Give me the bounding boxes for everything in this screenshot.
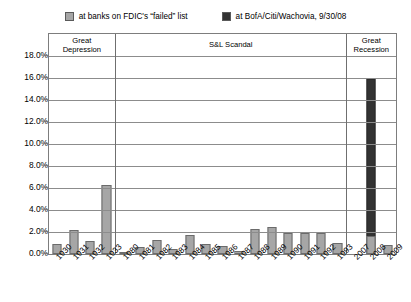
x-axis: 1930193119321933198019811982198319841985… — [48, 256, 397, 302]
bar-slot — [149, 56, 165, 254]
legend-item-failed-banks: at banks on FDIC's “failed” list — [65, 12, 188, 21]
bar-slot — [198, 56, 214, 254]
bar-slot — [264, 56, 280, 254]
bar-slot — [296, 56, 312, 254]
legend-swatch-icon — [65, 12, 74, 21]
gridline — [49, 56, 396, 57]
band-title-great-depression: GreatDepression — [49, 35, 115, 56]
bar-slot — [329, 56, 345, 254]
bar-slot — [247, 56, 263, 254]
legend-item-bofa-citi-wachovia: at BofA/Citi/Wachovia, 9/30/08 — [222, 12, 347, 21]
y-axis-tick-label: 16.0% — [6, 73, 48, 81]
y-axis-tick-label: 8.0% — [6, 161, 48, 169]
gridline — [49, 232, 396, 233]
legend-swatch-icon — [222, 12, 231, 21]
bar-slot — [280, 56, 296, 254]
band-title-line: S&L Scandal — [209, 41, 253, 50]
y-axis: 0.0%2.0%4.0%6.0%8.0%10.0%12.0%14.0%16.0%… — [0, 33, 48, 255]
bar-slot — [132, 56, 148, 254]
y-axis-tick-label: 18.0% — [6, 51, 48, 59]
band-divider — [115, 34, 116, 254]
y-axis-tick-label: 12.0% — [6, 117, 48, 125]
bar-slot — [214, 56, 230, 254]
band-title-sl-scandal: S&L Scandal — [116, 35, 346, 56]
legend-label: at BofA/Citi/Wachovia, 9/30/08 — [236, 12, 347, 21]
bar-failed-banks — [102, 185, 111, 254]
band-divider — [346, 34, 347, 254]
chart-legend: at banks on FDIC's “failed” list at BofA… — [0, 6, 411, 26]
band-title-line: Depression — [63, 46, 101, 55]
bar-slot — [380, 56, 396, 254]
gridline — [49, 144, 396, 145]
gridline — [49, 210, 396, 211]
bar-slot — [49, 56, 65, 254]
legend-label: at banks on FDIC's “failed” list — [79, 12, 188, 21]
y-axis-tick-label: 2.0% — [6, 227, 48, 235]
y-axis-tick-label: 4.0% — [6, 205, 48, 213]
bars-layer — [49, 56, 396, 254]
bar-slot — [65, 56, 81, 254]
plot-area: GreatDepressionS&L ScandalGreatRecession — [48, 33, 397, 255]
bar-slot — [165, 56, 181, 254]
y-axis-tick-label: 0.0% — [6, 249, 48, 257]
bar-slot — [181, 56, 197, 254]
bar-slot — [82, 56, 98, 254]
gridline — [49, 78, 396, 79]
y-axis-tick-label: 6.0% — [6, 183, 48, 191]
bar-slot — [313, 56, 329, 254]
gridline — [49, 166, 396, 167]
bar-slot — [363, 56, 379, 254]
gridline — [49, 122, 396, 123]
band-title-great-recession: GreatRecession — [347, 35, 396, 56]
bar-slot — [116, 56, 132, 254]
gridline — [49, 100, 396, 101]
y-axis-tick-label: 10.0% — [6, 139, 48, 147]
bar-slot — [98, 56, 114, 254]
band-title-line: Recession — [354, 46, 389, 55]
bank-deposits-bar-chart: at banks on FDIC's “failed” list at BofA… — [0, 0, 411, 302]
bar-slot — [231, 56, 247, 254]
gridline — [49, 188, 396, 189]
y-axis-tick-label: 14.0% — [6, 95, 48, 103]
bar-slot — [347, 56, 363, 254]
